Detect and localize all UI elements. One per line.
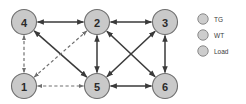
graph-node-1[interactable]: 1 — [12, 74, 37, 99]
graph-legend: TGWTLoad — [198, 14, 229, 56]
graph-canvas: 123456 TGWTLoad — [0, 0, 246, 104]
node-layer: 123456 — [12, 10, 178, 99]
graph-node-label-6: 6 — [162, 81, 168, 93]
graph-node-3[interactable]: 3 — [153, 10, 178, 35]
graph-node-label-3: 3 — [162, 17, 168, 29]
graph-node-6[interactable]: 6 — [153, 74, 178, 99]
graph-node-label-2: 2 — [94, 17, 100, 29]
legend-item-wt: WT — [198, 30, 224, 40]
legend-item-load: Load — [198, 46, 229, 56]
legend-marker-icon-wt — [198, 30, 208, 40]
legend-label-tg: TG — [214, 16, 223, 23]
graph-diagram-figure: 123456 TGWTLoad — [0, 0, 246, 104]
legend-label-load: Load — [214, 48, 229, 55]
graph-node-label-4: 4 — [21, 17, 28, 29]
graph-node-label-1: 1 — [21, 81, 27, 93]
legend-marker-icon-load — [198, 46, 208, 56]
graph-node-4[interactable]: 4 — [12, 10, 37, 35]
legend-label-wt: WT — [214, 32, 224, 39]
graph-node-5[interactable]: 5 — [85, 74, 110, 99]
legend-marker-icon-tg — [198, 14, 208, 24]
graph-node-label-5: 5 — [94, 81, 100, 93]
legend-item-tg: TG — [198, 14, 223, 24]
graph-node-2[interactable]: 2 — [85, 10, 110, 35]
